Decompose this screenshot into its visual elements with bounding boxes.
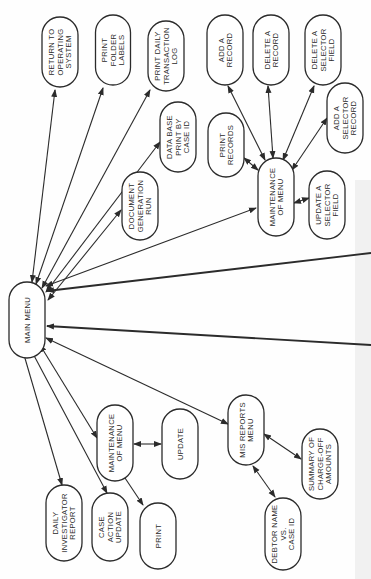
- page-edge-shadow: [355, 180, 371, 579]
- node-main-menu: MAIN MENU: [9, 282, 45, 358]
- node-print-daily-log: PRINT DAILYTRANSACTIONLOG: [148, 21, 184, 91]
- node-label: PRINTFOLDERLABELS: [100, 33, 126, 66]
- node-db-print-case-id: DATA BASEPRINT BYCASE ID: [160, 102, 196, 172]
- node-add-record: ADD ARECORD: [207, 15, 243, 85]
- connector-main_menu-to-case_action_update: [30, 348, 107, 493]
- node-print-left: PRINT: [140, 503, 176, 569]
- menu-nodes: MAIN MENURETURN TOOPERATINGSYSTEMPRINTFO…: [9, 15, 363, 570]
- connector-main_menu-to-maint_menu_left: [40, 345, 97, 438]
- connector-maint_menu_right-to-print_records: [244, 158, 258, 170]
- connector-maint_menu_left-to-print_left: [125, 478, 143, 505]
- node-doc-generation-run: DOCUMENTGENERATIONRUN: [122, 172, 158, 240]
- node-add-selector-record: ADD ASELECTORRECORD: [327, 83, 363, 153]
- node-print-folder-labels: PRINTFOLDERLABELS: [96, 15, 131, 85]
- node-label: UPDATE: [176, 428, 185, 460]
- connector-mis_reports_menu-to-summary_chargeoff: [264, 434, 301, 459]
- node-delete-record: DELETE ARECORD: [253, 15, 289, 85]
- connector-main_menu-to-offpage_upper: [47, 253, 371, 291]
- node-label: MAIN MENU: [23, 297, 32, 343]
- connector-maint_menu_right-to-delete_record: [268, 86, 273, 158]
- connector-main_menu-to-mis_reports_menu: [46, 338, 228, 424]
- connector-mis_reports_menu-to-debtor_name_case_id: [253, 466, 275, 497]
- connector-maint_menu_right-to-delete_selector_field: [283, 86, 314, 160]
- node-daily-investigator-report: DAILYINVESTIGATORREPORT: [46, 485, 82, 561]
- menu-hierarchy-diagram: MAIN MENURETURN TOOPERATINGSYSTEMPRINTFO…: [0, 0, 371, 579]
- node-update-selector-field: UPDATE ASELECTORFIELD: [309, 171, 345, 239]
- node-update: UPDATE: [162, 409, 198, 479]
- node-delete-selector-field: DELETE ASELECTORFIELD: [305, 15, 341, 85]
- connector-main_menu-to-offpage_lower: [47, 326, 371, 345]
- node-label: PRINT: [154, 524, 163, 548]
- node-case-action-update: CASEACTIONUPDATE: [92, 493, 128, 561]
- node-return-os: RETURN TOOPERATINGSYSTEM: [42, 17, 78, 87]
- connector-main_menu-to-daily_investigator_report: [22, 348, 62, 485]
- node-label: SUMMARY OFCHARGE-OFFAMOUNTS: [307, 437, 333, 491]
- node-debtor-name-case-id: DEBTOR NAMEVS.CASE ID: [265, 498, 301, 570]
- connector-maint_menu_right-to-update_selector_field: [294, 198, 309, 203]
- connector-main_menu-to-return_os: [32, 90, 55, 282]
- node-maint-menu-right: MAINTENANCEOF MENU: [258, 158, 294, 236]
- connector-main_menu-to-print_folder_labels: [36, 88, 103, 284]
- node-summary-chargeoff: SUMMARY OFCHARGE-OFFAMOUNTS: [302, 429, 338, 499]
- node-label: RETURN TOOPERATINGSYSTEM: [47, 29, 73, 76]
- node-print-records: PRINTRECORDS: [208, 113, 244, 177]
- node-mis-reports-menu: MIS REPORTSMENU: [228, 395, 264, 465]
- node-label: DATA BASEPRINT BYCASE ID: [165, 115, 191, 159]
- node-maint-menu-left: MAINTENANCEOF MENU: [97, 405, 133, 481]
- node-label: DELETE ARECORD: [263, 30, 281, 69]
